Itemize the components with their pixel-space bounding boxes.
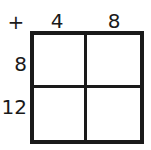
answer-cell-r1c1[interactable] (87, 88, 140, 141)
operator-symbol: + (4, 12, 28, 32)
column-header-1: 8 (86, 11, 142, 31)
row-header-1: 12 (0, 97, 27, 117)
row-header-0: 8 (0, 54, 27, 74)
column-header-0: 4 (29, 11, 85, 31)
answer-cell-r0c0[interactable] (34, 35, 87, 88)
answer-cell-r1c0[interactable] (34, 88, 87, 141)
answer-grid (30, 31, 144, 144)
answer-cell-r0c1[interactable] (87, 35, 140, 88)
addition-table-figure: + 4 8 8 12 (0, 0, 151, 150)
